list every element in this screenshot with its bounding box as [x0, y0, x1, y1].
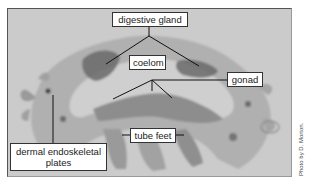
label-digestive-gland: digestive gland	[112, 12, 188, 27]
label-dermal-endoskeletal-plates: dermal endoskeletal plates	[10, 143, 107, 171]
label-gonad: gonad	[227, 72, 263, 87]
photo-credit: Photo by D. Morton.	[298, 123, 304, 176]
label-coelom: coelom	[129, 55, 166, 70]
label-dermal-line2: plates	[14, 157, 103, 168]
label-dermal-line1: dermal endoskeletal	[14, 146, 103, 157]
label-tube-feet: tube feet	[130, 128, 176, 143]
